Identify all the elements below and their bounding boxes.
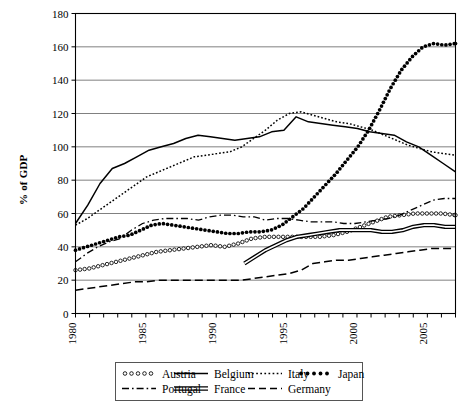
series-marker [114, 260, 118, 264]
series-marker [407, 213, 411, 217]
legend-item-austria: Austria [121, 368, 173, 380]
series-marker [182, 247, 186, 251]
series-marker [436, 42, 440, 46]
chart-svg: 020406080100120140160180 198019851990199… [0, 0, 464, 348]
series-marker [187, 226, 191, 230]
series-marker [173, 248, 177, 252]
series-marker [424, 44, 428, 48]
series-marker [241, 231, 245, 235]
gridlines [76, 47, 456, 280]
series-marker [417, 49, 421, 53]
series-marker [249, 230, 253, 234]
x-tick-label: 1985 [136, 322, 148, 345]
legend-swatch-belgium [173, 368, 209, 379]
series-italy [76, 112, 456, 225]
legend-item-belgium: Belgium [173, 368, 247, 380]
series-marker [313, 195, 317, 199]
series-marker [448, 42, 452, 46]
series-marker [106, 238, 110, 242]
series-marker [157, 222, 161, 226]
series-marker [389, 86, 393, 90]
series-marker [164, 249, 168, 253]
series-marker [288, 217, 292, 221]
x-tick-label: 1990 [206, 322, 218, 345]
series-marker [261, 229, 265, 233]
series-marker [375, 219, 379, 223]
series-marker [291, 215, 295, 219]
series-france [244, 225, 455, 263]
x-tick-label: 2000 [347, 322, 359, 345]
y-tick-label: 120 [52, 108, 69, 120]
series-line [76, 112, 456, 225]
series-marker [323, 235, 327, 239]
series-marker [398, 71, 402, 75]
series-marker [414, 52, 418, 56]
series-marker [94, 242, 98, 246]
series-line [76, 117, 456, 224]
series-marker [416, 212, 420, 216]
series-marker [232, 232, 236, 236]
series-marker [310, 198, 314, 202]
series-marker [216, 230, 220, 234]
plot-frame [76, 14, 456, 314]
x-tick-marks [76, 314, 456, 318]
series-marker [284, 220, 288, 224]
series-marker [98, 241, 102, 245]
series-marker [425, 212, 429, 216]
series-marker [118, 235, 122, 239]
series-marker [203, 228, 207, 232]
legend-row-1: Austria Belgium Italy Japan [121, 366, 357, 381]
series-line-inner [244, 225, 455, 263]
series-marker [199, 228, 203, 232]
series-marker [123, 258, 127, 262]
series-marker [249, 237, 253, 241]
legend-row-2: Portugal France Germany [121, 381, 357, 396]
legend-swatch-austria [121, 368, 157, 379]
y-tick-label: 100 [52, 141, 69, 153]
x-tick-label: 2005 [417, 322, 429, 345]
series-marker [333, 173, 337, 177]
series-marker [272, 235, 276, 239]
series-marker [318, 235, 322, 239]
plot-area: 020406080100120140160180 198019851990199… [0, 0, 464, 348]
series-marker [126, 234, 130, 238]
series-marker [211, 229, 215, 233]
series-marker [266, 229, 270, 233]
series-marker [370, 123, 374, 127]
series-marker [228, 232, 232, 236]
series-marker [335, 170, 339, 174]
y-tick-label: 40 [58, 241, 70, 253]
series-marker [372, 119, 376, 123]
legend-item-japan: Japan [297, 368, 364, 380]
series-marker [368, 126, 372, 130]
series-marker [298, 210, 302, 214]
x-tick-label: 1995 [277, 322, 289, 345]
series-marker [327, 234, 331, 238]
series-marker [281, 235, 285, 239]
series-belgium [76, 117, 456, 224]
legend-item-italy: Italy [247, 368, 297, 380]
legend-label-france: France [214, 383, 245, 395]
series-marker [170, 223, 174, 227]
series-marker [304, 204, 308, 208]
series-marker [301, 207, 305, 211]
series-marker [191, 246, 195, 250]
series-marker [332, 233, 336, 237]
series-marker [338, 167, 342, 171]
series-marker [110, 237, 114, 241]
series-marker [82, 246, 86, 250]
series-marker [195, 227, 199, 231]
series-marker [382, 101, 386, 105]
series-marker [105, 262, 109, 266]
series-marker [92, 266, 96, 270]
series-marker [90, 243, 94, 247]
series-marker [153, 223, 157, 227]
y-tick-label: 80 [58, 174, 70, 186]
series-marker [281, 222, 285, 226]
x-tick-labels: 198019851990199520002005 [66, 322, 430, 345]
series-marker [391, 82, 395, 86]
series-marker [258, 236, 262, 240]
series-marker [387, 89, 391, 93]
series-marker [363, 134, 367, 138]
series-marker [214, 244, 218, 248]
